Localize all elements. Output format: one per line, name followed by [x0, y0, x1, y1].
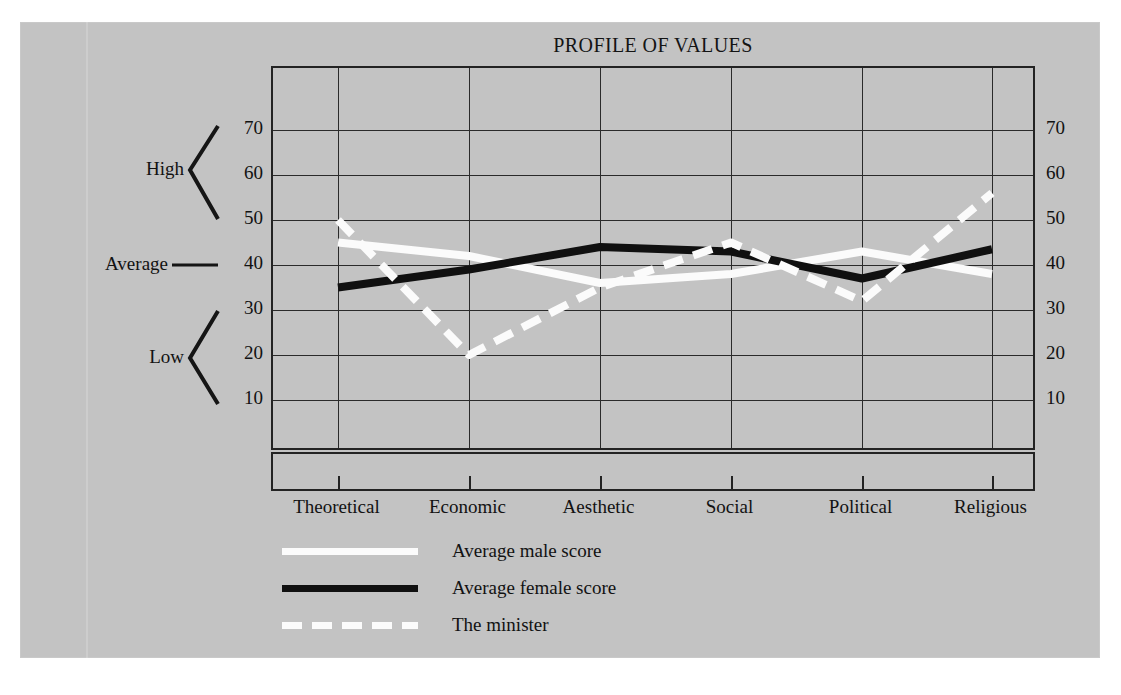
ytick-right-20: 20 — [1046, 342, 1090, 364]
annotation-label-high: High — [60, 158, 184, 180]
legend-swatch-dashed-white-icon — [282, 622, 418, 629]
legend-label-female: Average female score — [452, 573, 616, 603]
annotation-label-low: Low — [60, 346, 184, 368]
xtick-social — [731, 476, 733, 490]
ytick-left-10: 10 — [219, 387, 263, 409]
figure-root: PROFILE OF VALUES Theoretical Economic A… — [0, 0, 1121, 695]
xlabel-economic: Economic — [402, 496, 533, 518]
x-axis-band — [271, 452, 1035, 491]
xtick-religious — [992, 476, 994, 490]
ytick-right-60: 60 — [1046, 162, 1090, 184]
ytick-left-40: 40 — [219, 252, 263, 274]
ytick-left-70: 70 — [219, 117, 263, 139]
legend-item-male: Average male score — [282, 536, 802, 573]
xlabel-social: Social — [664, 496, 795, 518]
xtick-theoretical — [338, 476, 340, 490]
ytick-right-10: 10 — [1046, 387, 1090, 409]
plot-area — [271, 66, 1035, 450]
legend-item-minister: The minister — [282, 610, 802, 647]
xtick-aesthetic — [600, 476, 602, 490]
legend-label-minister: The minister — [452, 610, 549, 640]
ytick-right-70: 70 — [1046, 117, 1090, 139]
legend-item-female: Average female score — [282, 573, 802, 610]
series-layer — [271, 66, 1035, 450]
ytick-left-20: 20 — [219, 342, 263, 364]
ytick-right-50: 50 — [1046, 207, 1090, 229]
xlabel-political: Political — [795, 496, 926, 518]
legend-swatch-solid-white-icon — [282, 548, 418, 555]
chart-legend: Average male score Average female score … — [282, 536, 802, 647]
legend-label-male: Average male score — [452, 536, 601, 566]
xlabel-aesthetic: Aesthetic — [533, 496, 664, 518]
xlabel-theoretical: Theoretical — [271, 496, 402, 518]
ytick-left-50: 50 — [219, 207, 263, 229]
annotation-label-average: Average — [60, 253, 168, 275]
ytick-left-30: 30 — [219, 297, 263, 319]
legend-swatch-solid-black-icon — [282, 585, 418, 592]
xlabel-religious: Religious — [925, 496, 1056, 518]
chart-title: PROFILE OF VALUES — [271, 34, 1035, 57]
xtick-political — [862, 476, 864, 490]
ytick-left-60: 60 — [219, 162, 263, 184]
ytick-right-30: 30 — [1046, 297, 1090, 319]
ytick-right-40: 40 — [1046, 252, 1090, 274]
xtick-economic — [469, 476, 471, 490]
